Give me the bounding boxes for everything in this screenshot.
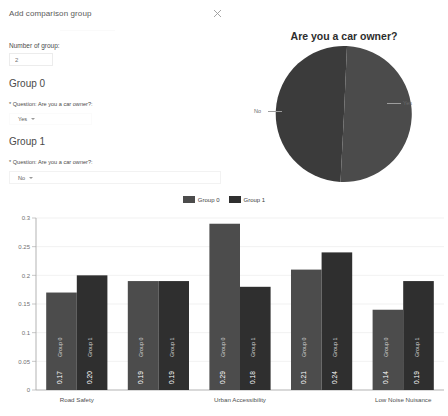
- bar-value-label: 0.21: [300, 371, 307, 384]
- bar-value-label: 0.19: [168, 371, 175, 384]
- y-axis-tick-label: 0.25: [18, 244, 30, 250]
- bar-series-label: Group 0: [301, 338, 307, 357]
- bar-series-label: Group 1: [332, 338, 338, 357]
- x-axis-tick-label: Road Safety: [60, 396, 95, 403]
- y-axis-tick-label: 0.15: [18, 301, 30, 307]
- bar-series-label: Group 1: [87, 338, 93, 357]
- pie-leader-no: [268, 111, 282, 112]
- y-axis-tick-label: 0.2: [22, 273, 31, 279]
- bar-series-label: Group 0: [138, 338, 144, 357]
- bar-value-label: 0.18: [249, 371, 256, 384]
- group-1-answer-select[interactable]: No: [9, 171, 221, 184]
- pie-label-no: No: [254, 108, 261, 114]
- number-of-group-input[interactable]: [9, 53, 53, 66]
- bar-value-label: 0.14: [382, 371, 389, 384]
- legend-label-group-0: Group 0: [198, 197, 220, 203]
- divider: [60, 30, 115, 31]
- y-axis-tick-label: 0.3: [22, 215, 31, 221]
- x-axis-tick-label: Low Noise Nuisance: [375, 396, 432, 403]
- y-axis-tick-label: 0.05: [18, 359, 30, 365]
- y-axis-tick-label: 0.1: [22, 330, 31, 336]
- legend-item-group-0[interactable]: Group 0: [183, 196, 220, 203]
- close-icon[interactable]: [212, 8, 223, 19]
- pie-label-yes: Yes: [403, 100, 412, 106]
- group-0-answer-select[interactable]: Yes: [9, 113, 92, 125]
- bar-chart: Group 0 Group 1 00.050.10.150.20.250.30.…: [0, 192, 448, 416]
- group-1-answer-value: No: [18, 175, 25, 181]
- bar-series-label: Group 1: [250, 338, 256, 357]
- y-axis-tick-label: 0: [27, 387, 31, 393]
- x-axis-tick-label: Urban Accessibility: [214, 396, 267, 403]
- pie-slice-no: [276, 46, 347, 182]
- dialog-header: Add comparison group: [0, 0, 238, 24]
- chevron-down-icon: [29, 177, 33, 179]
- bar-series-label: Group 1: [169, 338, 175, 357]
- group-0-answer-value: Yes: [18, 116, 27, 122]
- bar[interactable]: [209, 224, 240, 390]
- comparison-group-panel: Add comparison group Number of group: Gr…: [0, 0, 448, 192]
- bar-value-label: 0.20: [86, 371, 93, 384]
- pie-leader-yes: [387, 103, 401, 104]
- bar-chart-legend: Group 0 Group 1: [0, 196, 448, 203]
- group-0-heading: Group 0: [9, 78, 45, 89]
- legend-item-group-1[interactable]: Group 1: [229, 196, 266, 203]
- bar-series-label: Group 1: [414, 338, 420, 357]
- pie-chart: Are you a car owner? No Yes: [240, 0, 448, 192]
- pie-chart-title: Are you a car owner?: [240, 30, 448, 42]
- bar-series-label: Group 0: [57, 338, 63, 357]
- bar-chart-canvas: 00.050.10.150.20.250.30.17Group 00.20Gro…: [0, 212, 448, 416]
- chevron-down-icon: [31, 118, 35, 120]
- pie-chart-canvas: [240, 44, 448, 184]
- group-0-question-label: * Question: Are you a car owner?:: [9, 101, 93, 107]
- legend-swatch-group-1: [229, 196, 241, 203]
- bar-series-label: Group 0: [383, 338, 389, 357]
- bar-value-label: 0.19: [137, 371, 144, 384]
- number-of-group-label: Number of group:: [9, 42, 60, 49]
- legend-label-group-1: Group 1: [244, 197, 266, 203]
- add-comparison-group-form: Add comparison group Number of group: Gr…: [0, 0, 238, 192]
- group-1-question-label: * Question: Are you a car owner?:: [9, 159, 93, 165]
- legend-swatch-group-0: [183, 196, 195, 203]
- bar-value-label: 0.19: [413, 371, 420, 384]
- pie-slice-yes: [341, 46, 412, 182]
- bar-series-label: Group 0: [220, 338, 226, 357]
- dialog-title: Add comparison group: [9, 9, 92, 18]
- bar-value-label: 0.29: [219, 371, 226, 384]
- group-1-heading: Group 1: [9, 136, 45, 147]
- bar[interactable]: [322, 252, 353, 390]
- bar-value-label: 0.17: [56, 371, 63, 384]
- bar-value-label: 0.24: [331, 371, 338, 384]
